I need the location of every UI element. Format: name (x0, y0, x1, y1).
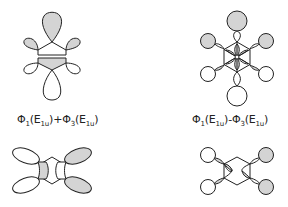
label-difference-combination: Φ1(E1u)-Φ3(E1u) (192, 113, 268, 128)
orbital-difference-diagram (201, 11, 274, 106)
label-sum-combination: Φ1(E1u)+Φ3(E1u) (17, 113, 98, 128)
orbital-sideon-difference-diagram (201, 148, 274, 195)
orbital-sum-diagram (24, 12, 80, 100)
orbital-sideon-sum-diagram (10, 145, 93, 197)
orbital-diagram (0, 0, 288, 207)
